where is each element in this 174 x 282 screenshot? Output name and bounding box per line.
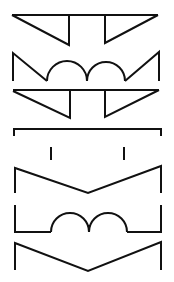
background — [0, 0, 174, 282]
glyph-diagram — [0, 0, 174, 282]
